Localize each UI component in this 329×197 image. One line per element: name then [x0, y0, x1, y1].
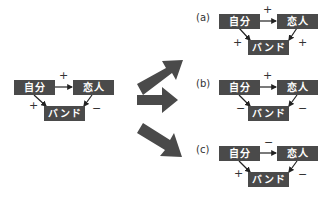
connector-lines [0, 0, 329, 197]
node-self-b: 自分 [219, 80, 260, 95]
label-c: (c) [196, 144, 209, 155]
node-lover-b: 恋人 [277, 80, 318, 95]
label-b: (b) [196, 78, 210, 89]
node-self-c: 自分 [219, 146, 260, 161]
sign-self-band-c: + [234, 168, 243, 179]
sign-self-lover-a: + [263, 4, 272, 15]
sign-self-lover-b: + [263, 70, 272, 81]
sign-self-band: + [29, 100, 38, 111]
sign-self-lover-c: − [264, 137, 273, 148]
node-band: バンド [44, 106, 85, 121]
arrow-up-right-icon [137, 60, 183, 95]
sign-self-lover: + [59, 70, 68, 81]
arrow-down-right-icon [137, 123, 182, 157]
node-self: 自分 [14, 80, 55, 95]
node-band-a: バンド [248, 40, 289, 55]
node-self-a: 自分 [219, 14, 260, 29]
node-band-b: バンド [248, 106, 289, 121]
node-lover-c: 恋人 [277, 146, 318, 161]
sign-lover-band-a: + [298, 37, 307, 48]
node-lover-a: 恋人 [277, 14, 318, 29]
sign-lover-band-c: − [298, 169, 307, 180]
label-a: (a) [196, 12, 210, 23]
sign-self-band-b: − [236, 103, 245, 114]
sign-lover-band: − [92, 103, 101, 114]
sign-self-band-a: + [233, 37, 242, 48]
node-lover: 恋人 [73, 80, 114, 95]
node-band-c: バンド [248, 172, 289, 187]
sign-lover-band-b: − [298, 103, 307, 114]
